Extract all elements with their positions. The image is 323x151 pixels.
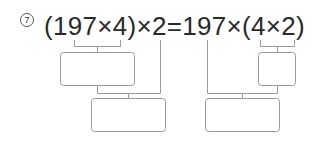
bracket-197x4 <box>75 40 121 47</box>
answer-box-right-outer[interactable] <box>206 99 280 132</box>
answer-box-left-inner[interactable] <box>61 53 135 86</box>
answer-box-right-inner[interactable] <box>259 53 296 86</box>
calculation-diagram <box>0 0 323 151</box>
bracket-4x2 <box>261 40 295 47</box>
answer-box-left-outer[interactable] <box>92 99 166 132</box>
